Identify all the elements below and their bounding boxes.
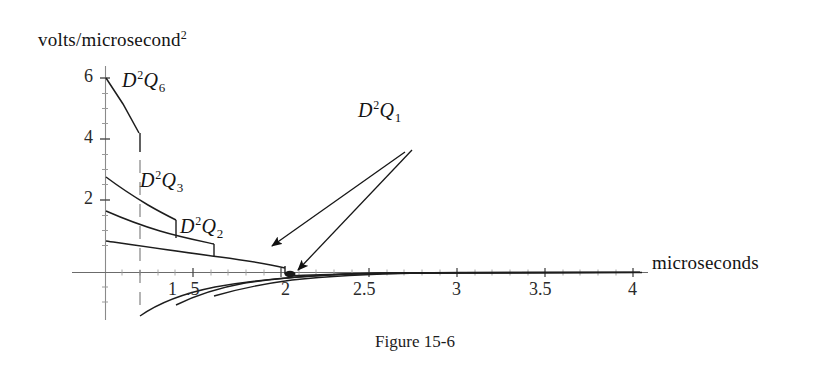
x-tick-label-3: 3 [452,279,461,300]
curve-label-d2q3-d: D [140,169,155,191]
curve-label-d2q2: D2Q2 [180,214,224,242]
x-tick-label-4: 4 [628,279,637,300]
x-tick-label-1-5: .5 [186,279,200,300]
x-tick-label-2: 2 [281,279,290,300]
curve-d2q6-lower [140,272,640,316]
curve-label-d2q1-subscript: 1 [395,110,402,125]
figure-15-6: volts/microsecond2 microseconds 6 4 2 1 … [0,0,830,370]
annotation-arrow-left [272,152,405,246]
curve-d2q2-lower [214,272,640,296]
curve-label-d2q2-d: D [180,215,195,237]
annotation-arrow-right [298,150,412,270]
curve-label-d2q3: D2Q3 [140,168,184,196]
curve-label-d2q6: D2Q6 [122,68,166,96]
curve-label-d2q3-subscript: 3 [177,180,184,195]
curve-d2q1-upper [106,241,285,268]
plot-canvas [0,0,830,370]
curve-label-d2q6-subscript: 6 [159,80,166,95]
y-tick-label-2: 2 [84,188,93,209]
x-axis-title: microseconds [652,252,759,274]
x-tick-label-2-5: 2.5 [353,279,376,300]
curve-junction-marker [285,271,296,277]
y-axis-title-exponent: 2 [181,28,187,42]
x-tick-label-3-5: 3.5 [529,279,552,300]
y-tick-label-6: 6 [84,66,93,87]
curve-label-d2q1-d: D [358,99,373,121]
curve-label-d2q1: D2Q1 [358,98,402,126]
curve-label-d2q6-d: D [122,69,137,91]
y-axis-title: volts/microsecond2 [38,28,187,51]
y-tick-label-4: 4 [84,127,93,148]
curve-label-d2q2-subscript: 2 [217,226,224,241]
x-tick-label-1: 1 [168,279,177,300]
figure-caption: Figure 15-6 [0,332,830,352]
y-axis-title-text: volts/microsecond [38,29,181,50]
